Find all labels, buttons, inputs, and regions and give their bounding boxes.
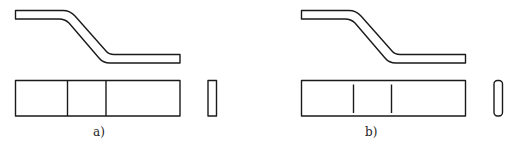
- panel-a: [16, 11, 217, 117]
- panel-b: [302, 11, 503, 117]
- panel-a-bent-strip: [16, 11, 181, 64]
- panel-b-bent-strip: [302, 11, 466, 64]
- diagram-canvas: a) b): [0, 0, 512, 149]
- panel-a-front-view: [16, 81, 181, 117]
- panel-b-side-view: [494, 81, 503, 117]
- panel-b-front-view: [302, 81, 466, 117]
- panel-a-label: a): [93, 126, 105, 138]
- panel-a-side-view: [208, 81, 217, 117]
- panel-b-label: b): [365, 126, 377, 138]
